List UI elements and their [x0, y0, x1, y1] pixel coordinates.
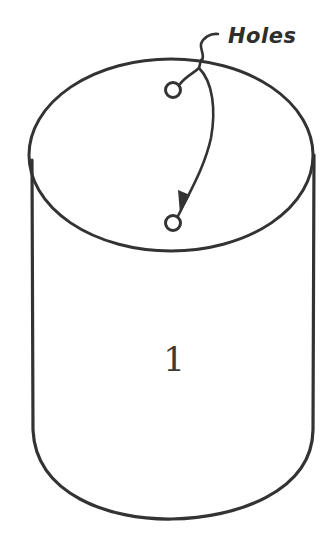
- body-number-label: 1: [163, 339, 185, 379]
- top-ellipse: [29, 59, 313, 251]
- hole-upper: [166, 83, 181, 98]
- callout-label: Holes: [228, 24, 296, 48]
- callout-squiggle: [201, 34, 218, 60]
- hole-lower: [166, 216, 181, 231]
- leader-line-upper: [180, 60, 201, 84]
- cylinder-side: [32, 155, 314, 519]
- cylinder-diagram: Holes 1: [0, 0, 334, 533]
